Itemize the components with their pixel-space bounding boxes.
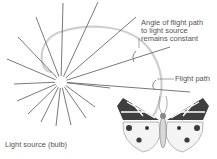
angle-label: Angle of flight path to light source rem…	[141, 19, 203, 43]
angle-label-line3: remains constant	[141, 35, 203, 43]
light-source-bulb	[55, 76, 67, 88]
angle-arc-icon	[153, 80, 156, 90]
light-source-label: Light source (bulb)	[5, 141, 67, 149]
moth-illustration-icon	[117, 96, 209, 152]
angle-arc-icon	[133, 51, 136, 62]
flight-path-label: Flight path	[175, 75, 210, 83]
